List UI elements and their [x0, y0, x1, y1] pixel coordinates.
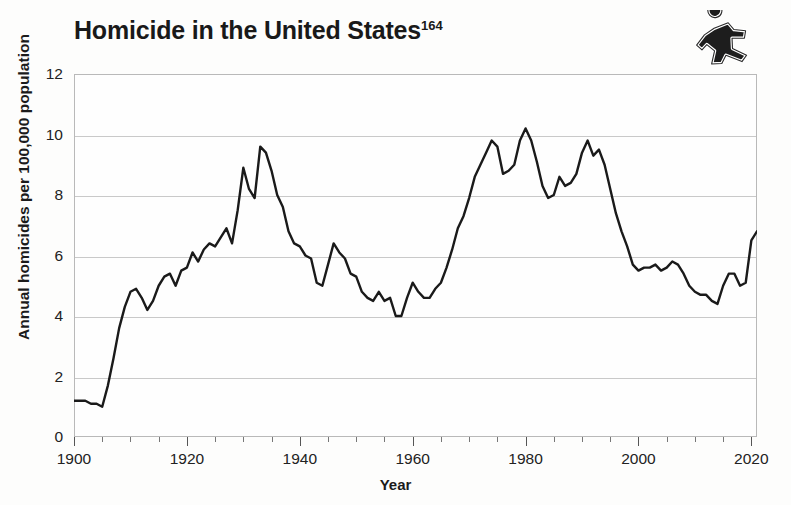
xtick-label-1940: 1940 — [260, 450, 340, 468]
xtick-1905 — [102, 437, 103, 442]
xtick-1915 — [159, 437, 160, 442]
xtick-1965 — [441, 437, 442, 442]
xtick-label-2000: 2000 — [598, 450, 678, 468]
xtick-1900 — [74, 437, 75, 446]
xtick-1920 — [187, 437, 188, 446]
xtick-1950 — [356, 437, 357, 442]
xtick-label-1980: 1980 — [486, 450, 566, 468]
xtick-2005 — [667, 437, 668, 442]
xtick-1940 — [300, 437, 301, 446]
xtick-1955 — [384, 437, 385, 442]
chart-title-text: Homicide in the United States — [74, 16, 421, 44]
xtick-1935 — [272, 437, 273, 442]
xtick-1930 — [243, 437, 244, 442]
xtick-label-1900: 1900 — [34, 450, 114, 468]
xtick-1980 — [526, 437, 527, 446]
xtick-1985 — [554, 437, 555, 442]
homicide-rate-series — [74, 128, 757, 406]
xtick-1990 — [582, 437, 583, 442]
xtick-1970 — [469, 437, 470, 442]
xtick-1925 — [215, 437, 216, 442]
x-axis-label: Year — [0, 476, 791, 493]
page-title: Homicide in the United States164 — [74, 16, 443, 45]
xtick-1910 — [130, 437, 131, 442]
xtick-label-2020: 2020 — [711, 450, 791, 468]
xtick-1995 — [610, 437, 611, 442]
running-figure-icon — [692, 10, 758, 68]
xtick-1960 — [413, 437, 414, 446]
xtick-label-1960: 1960 — [373, 450, 453, 468]
xtick-1945 — [328, 437, 329, 442]
xtick-2000 — [638, 437, 639, 446]
xtick-2010 — [695, 437, 696, 442]
ytick-label-0: 0 — [23, 428, 63, 446]
chart-page: Homicide in the United States164 12 10 8… — [0, 0, 791, 505]
xtick-label-1920: 1920 — [147, 450, 227, 468]
y-axis-label: Annual homicides per 100,000 population — [15, 0, 33, 387]
title-footnote-superscript: 164 — [421, 18, 443, 33]
xtick-1975 — [497, 437, 498, 442]
data-line-chart — [74, 74, 757, 437]
xtick-2020 — [751, 437, 752, 446]
xtick-2015 — [723, 437, 724, 442]
